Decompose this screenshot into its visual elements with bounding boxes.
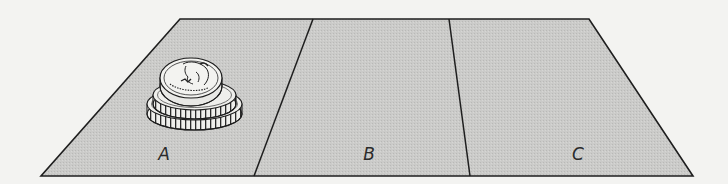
region-a-label: A: [157, 144, 170, 164]
region-c-label: C: [572, 144, 584, 164]
region-c-area[interactable]: [449, 19, 693, 176]
coin-mat-diagram: A B C: [0, 0, 728, 184]
region-b-label: B: [363, 144, 375, 164]
coin-top-quarter: [160, 58, 222, 106]
